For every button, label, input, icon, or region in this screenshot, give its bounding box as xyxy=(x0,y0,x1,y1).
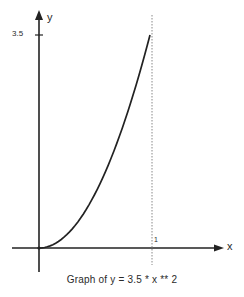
y-axis-label: y xyxy=(47,11,53,23)
curve-series xyxy=(39,35,150,248)
chart-caption: Graph of y = 3.5 * x ** 2 xyxy=(0,274,244,285)
x-tick-label: 1 xyxy=(154,236,158,243)
origin-point xyxy=(37,246,40,249)
y-tick-label: 3.5 xyxy=(12,29,23,38)
x-axis-label: x xyxy=(227,240,233,252)
y-axis-arrow-icon xyxy=(35,10,43,20)
graph-plot xyxy=(0,0,244,297)
x-axis-arrow-icon xyxy=(214,245,224,252)
